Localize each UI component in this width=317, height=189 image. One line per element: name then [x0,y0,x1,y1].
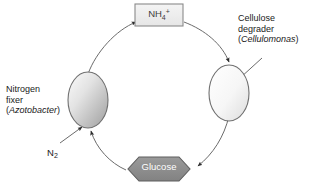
cellulose-degrader-line2: degrader [238,24,299,35]
node-cellulose-degrader-cell [209,65,249,121]
cycle-diagram: NH4+ Glucose Nitrogen fixer (Azotobacter… [0,0,317,189]
nh4-superscript: + [166,8,170,15]
nitrogen-fixer-line1: Nitrogen [6,84,60,95]
label-n2: N2 [47,147,58,160]
node-nitrogen-fixer-cell [68,72,108,128]
nitrogen-fixer-line3: (Azotobacter) [6,105,60,116]
arrow-cellulose-degrader-to-glucose [198,116,229,166]
cellulose-degrader-species: Cellulomonas [241,34,296,44]
label-cellulose-degrader: Cellulose degrader (Cellulomonas) [238,13,299,45]
arrow-n2-uptake [60,127,82,143]
n2-subscript: 2 [54,152,58,159]
node-nh4-label: NH4+ [134,8,184,21]
arrow-nh4-to-cellulose-degrader [184,22,229,62]
cellulose-degrader-line3: (Cellulomonas) [238,34,299,45]
nh4-text: NH [148,8,162,19]
nitrogen-fixer-species: Azotobacter [9,105,57,115]
n2-text: N [47,147,54,158]
arrow-glucose-to-nitrogen-fixer [91,131,126,170]
paren-close: ) [296,34,299,44]
label-nitrogen-fixer: Nitrogen fixer (Azotobacter) [6,84,60,116]
paren-close: ) [57,105,60,115]
node-glucose-label: Glucose [134,161,184,172]
nitrogen-fixer-line2: fixer [6,95,60,106]
cellulose-degrader-line1: Cellulose [238,13,299,24]
arrow-nitrogen-fixer-to-nh4 [88,22,136,74]
